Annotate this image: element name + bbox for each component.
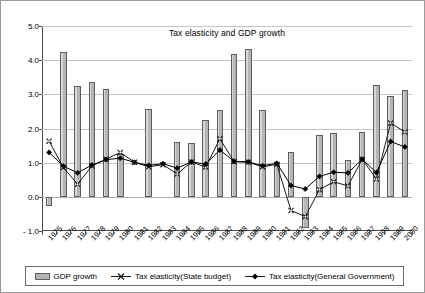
x-marker-icon — [402, 129, 407, 134]
x-axis-tick-mark — [85, 231, 86, 235]
y-axis-tick-label: 5.0 — [28, 22, 39, 31]
x-axis-tick-mark — [184, 231, 185, 235]
x-axis-tick-mark — [142, 231, 143, 235]
x-marker-icon — [288, 208, 293, 213]
x-axis-tick-mark — [70, 231, 71, 235]
diamond-marker-icon — [146, 163, 151, 168]
chart-container: Tax elasticity and GDP growth 5.04.03.02… — [0, 0, 425, 293]
diamond-marker-icon — [331, 170, 336, 175]
x-axis-tick-mark — [270, 231, 271, 235]
diamond-marker-icon — [260, 163, 265, 168]
x-axis-tick-mark — [398, 231, 399, 235]
x-marker-icon — [75, 182, 80, 187]
x-axis-tick-mark — [127, 231, 128, 235]
x-axis-tick-mark — [298, 231, 299, 235]
legend-item[interactable]: GDP growth — [35, 272, 97, 281]
chart-legend: GDP growthTax elasticity(State budget)Ta… — [25, 266, 404, 286]
diamond-marker-icon — [245, 272, 265, 281]
x-marker-icon — [175, 171, 180, 176]
diamond-marker-icon — [288, 183, 293, 188]
x-marker-icon — [345, 183, 350, 188]
x-marker-icon — [303, 214, 308, 219]
diamond-marker-icon — [89, 162, 94, 167]
diamond-marker-icon — [402, 144, 407, 149]
diamond-marker-icon — [75, 170, 80, 175]
legend-label: Tax elasticity(General Government) — [269, 272, 394, 281]
x-axis-tick-mark — [56, 231, 57, 235]
legend-item[interactable]: Tax elasticity(General Government) — [245, 272, 394, 281]
y-axis-tick-label: 1.0 — [28, 158, 39, 167]
x-axis-tick-mark — [284, 231, 285, 235]
x-axis: 1975197619771978197919801981198219831984… — [42, 231, 412, 271]
x-axis-tick-mark — [170, 231, 171, 235]
bar-swatch-icon — [35, 273, 50, 280]
x-axis-tick-mark — [113, 231, 114, 235]
x-marker-icon — [47, 139, 52, 144]
x-axis-tick-mark — [369, 231, 370, 235]
y-axis-tick-label: 2.0 — [28, 124, 39, 133]
x-axis-tick-mark — [327, 231, 328, 235]
legend-label: GDP growth — [54, 272, 97, 281]
x-marker-icon — [118, 150, 123, 155]
diamond-marker-icon — [388, 139, 393, 144]
x-axis-tick-mark — [99, 231, 100, 235]
x-axis-tick-mark — [255, 231, 256, 235]
y-axis-tick-label: 3.0 — [28, 90, 39, 99]
plot-area — [42, 26, 412, 231]
x-marker-icon — [331, 179, 336, 184]
x-axis-tick-mark — [156, 231, 157, 235]
x-axis-tick-mark — [227, 231, 228, 235]
x-marker-icon — [317, 187, 322, 192]
x-axis-tick-mark — [241, 231, 242, 235]
x-axis-tick-mark — [355, 231, 356, 235]
legend-item[interactable]: Tax elasticity(State budget) — [111, 272, 231, 281]
diamond-marker-icon — [175, 166, 180, 171]
x-marker-icon — [111, 272, 131, 281]
x-axis-tick-mark — [42, 231, 43, 235]
y-axis-tick-label: 4.0 — [28, 56, 39, 65]
y-axis-tick-label: - 1.0 — [23, 227, 39, 236]
line-series-overlay — [42, 26, 412, 231]
x-axis-tick-mark — [312, 231, 313, 235]
y-axis: 5.04.03.02.01.00.0- 1.0 — [1, 26, 39, 231]
diamond-marker-icon — [118, 156, 123, 161]
legend-label: Tax elasticity(State budget) — [135, 272, 231, 281]
x-axis-tick-mark — [213, 231, 214, 235]
x-axis-tick-mark — [341, 231, 342, 235]
y-axis-tick-label: 0.0 — [28, 192, 39, 201]
x-axis-tick-mark — [412, 231, 413, 235]
x-axis-tick-mark — [384, 231, 385, 235]
x-axis-tick-mark — [199, 231, 200, 235]
line-path — [49, 141, 405, 188]
x-marker-icon — [217, 136, 222, 141]
